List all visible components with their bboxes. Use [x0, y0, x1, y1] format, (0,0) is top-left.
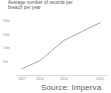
y-axis-tick-label-5m: 5m	[3, 60, 8, 64]
y-axis-tick-label-10m: 10m	[3, 46, 10, 50]
series-line-average-records	[22, 23, 100, 69]
x-axis-tick-label-2014: 2014	[57, 77, 71, 81]
x-axis-tick-label-2007: 2007	[15, 77, 29, 81]
x-axis-tick-label-2020: 2020	[93, 77, 107, 81]
x-axis-tick-label-2010: 2010	[33, 77, 47, 81]
y-axis-tick-label-15m: 15m	[3, 33, 10, 37]
chart-figure: Average number of records per breach per…	[0, 0, 111, 93]
source-caption: Source: Imperva	[41, 83, 101, 92]
y-axis-tick-label-20m: 20m	[3, 19, 10, 23]
